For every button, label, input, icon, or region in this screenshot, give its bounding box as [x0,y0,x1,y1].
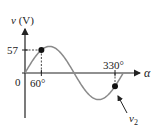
point-60 [38,47,44,53]
v2-pointer-arrow [118,96,127,113]
origin-label: 0 [15,76,21,88]
value-57-label: 57 [7,44,19,56]
point-v2 [112,83,118,89]
y-axis-label: v (V) [11,14,34,27]
angle-60-label: 60° [30,77,45,89]
alpha-label: α [144,66,151,80]
angle-330-label: 330° [103,59,124,71]
sine-diagram: v (V) 57 0 60° 330° α v2 [0,0,161,130]
v2-label: v2 [129,112,138,127]
